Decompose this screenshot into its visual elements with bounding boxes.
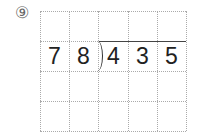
answer-grid: [40, 11, 186, 131]
divisor-digit: 7: [40, 41, 69, 71]
dividend-digit: 4: [99, 41, 128, 71]
dividend-digit: 5: [157, 41, 186, 71]
problem-number: ⑨: [14, 5, 29, 20]
dividend-digit: 3: [128, 41, 157, 71]
